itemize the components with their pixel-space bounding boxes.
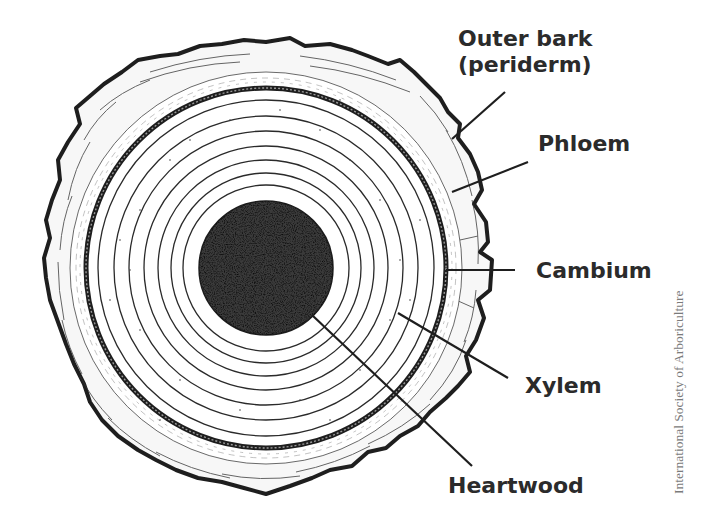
label-outer-bark: Outer bark (periderm)	[458, 26, 592, 78]
leader-outer-bark	[452, 92, 505, 139]
image-credit: International Society of Arboriculture	[671, 290, 687, 494]
label-phloem: Phloem	[538, 131, 630, 157]
label-outer-bark-line2: (periderm)	[458, 52, 592, 78]
heartwood	[199, 201, 333, 335]
label-heartwood: Heartwood	[448, 473, 584, 499]
label-xylem: Xylem	[525, 373, 602, 399]
label-cambium: Cambium	[536, 258, 652, 284]
label-outer-bark-line1: Outer bark	[458, 26, 592, 52]
